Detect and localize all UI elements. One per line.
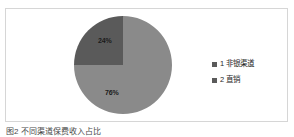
- legend-swatch-icon: [212, 62, 217, 67]
- plot-area: 24% 76%: [6, 9, 202, 121]
- legend-item-direct-sales[interactable]: 2 直销: [212, 73, 288, 87]
- chart-frame: 24% 76% 1 非银渠道 2 直销: [5, 8, 288, 122]
- chart-legend: 1 非银渠道 2 直销: [212, 57, 288, 89]
- pie-slice-label-non-bank-channel: 24%: [98, 37, 111, 44]
- pie-slice-label-direct-sales: 76%: [105, 89, 118, 96]
- legend-label-direct-sales: 2 直销: [220, 76, 240, 84]
- figure-caption: 图2 不同渠道保费收入占比: [6, 127, 186, 137]
- legend-item-non-bank-channel[interactable]: 1 非银渠道: [212, 57, 288, 71]
- legend-label-non-bank-channel: 1 非银渠道: [220, 60, 254, 68]
- pie-chart-figure: 24% 76% 1 非银渠道 2 直销 图2 不同渠道保费收入占比: [0, 0, 294, 137]
- legend-swatch-icon: [212, 78, 217, 83]
- pie-chart: [68, 10, 178, 120]
